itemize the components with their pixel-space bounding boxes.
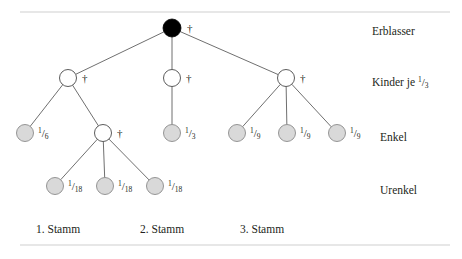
row-label-urenkel: Urenkel <box>380 184 417 196</box>
edge-kind-3-enkel-5 <box>286 86 287 124</box>
stamm-label-stamm-2: 2. Stamm <box>140 223 184 235</box>
node-circle-enkel-6 <box>329 125 346 142</box>
node-enkel-2: † <box>95 125 124 142</box>
node-circle-enkel-1 <box>17 125 34 142</box>
node-kind-1: † <box>60 70 89 87</box>
node-enkel-4: 1/9 <box>229 125 261 142</box>
node-urenkel-3: 1/18 <box>147 178 183 195</box>
dagger-icon-enkel-2: † <box>117 127 123 139</box>
nodes-layer: ††††1/6†1/31/91/91/91/181/181/18 <box>17 19 361 195</box>
node-circle-enkel-4 <box>229 125 246 142</box>
edge-kind-3-enkel-6 <box>292 84 331 127</box>
dagger-icon-kind-3: † <box>300 72 306 84</box>
node-urenkel-2: 1/18 <box>97 178 133 195</box>
stamm-label-stamm-3: 3. Stamm <box>240 223 284 235</box>
stamm-label-stamm-1: 1. Stamm <box>36 223 80 235</box>
row-label-kinder: Kinder je 1/3 <box>372 75 429 89</box>
edge-enkel-2-urenkel-1 <box>61 139 98 179</box>
node-enkel-5: 1/9 <box>279 125 311 142</box>
edge-kind-1-enkel-2 <box>73 85 99 126</box>
edge-kind-1-enkel-1 <box>30 85 63 127</box>
node-circle-urenkel-1 <box>47 178 64 195</box>
share-label-enkel-1: 1/6 <box>38 126 49 140</box>
dagger-icon-kind-1: † <box>82 72 88 84</box>
node-circle-enkel-2 <box>95 125 112 142</box>
node-enkel-6: 1/9 <box>329 125 361 142</box>
edge-erblasser-kind-3 <box>180 32 278 75</box>
node-circle-urenkel-3 <box>147 178 164 195</box>
tree-canvas: ††††1/6†1/31/91/91/91/181/181/18 Erblass… <box>0 0 462 259</box>
node-circle-kind-2 <box>164 70 181 87</box>
edge-enkel-2-urenkel-2 <box>103 141 104 177</box>
node-circle-enkel-5 <box>279 125 296 142</box>
edge-erblasser-kind-1 <box>76 32 164 74</box>
edges-layer <box>30 32 331 180</box>
share-label-enkel-5: 1/9 <box>300 126 311 140</box>
share-label-enkel-4: 1/9 <box>250 126 261 140</box>
node-urenkel-1: 1/18 <box>47 178 83 195</box>
erbfolge-diagram: ††††1/6†1/31/91/91/91/181/181/18 Erblass… <box>0 0 462 259</box>
node-circle-kind-1 <box>60 70 77 87</box>
row-label-erblasser: Erblasser <box>372 25 415 37</box>
row-label-enkel: Enkel <box>380 131 407 143</box>
node-kind-2: † <box>164 70 193 87</box>
node-circle-enkel-3 <box>164 125 181 142</box>
node-kind-3: † <box>278 70 307 87</box>
node-circle-erblasser <box>163 19 181 37</box>
edge-enkel-2-urenkel-3 <box>109 139 149 180</box>
row-labels-layer: ErblasserKinder je 1/3EnkelUrenkel <box>372 25 429 196</box>
stamm-labels-layer: 1. Stamm2. Stamm3. Stamm <box>36 223 284 235</box>
dagger-icon-kind-2: † <box>186 72 192 84</box>
share-label-enkel-6: 1/9 <box>350 126 361 140</box>
node-circle-urenkel-2 <box>97 178 114 195</box>
node-enkel-3: 1/3 <box>164 125 196 142</box>
node-circle-kind-3 <box>278 70 295 87</box>
share-label-urenkel-2: 1/18 <box>118 179 133 193</box>
share-label-urenkel-3: 1/18 <box>168 179 183 193</box>
node-enkel-1: 1/6 <box>17 125 49 142</box>
node-erblasser: † <box>163 19 193 37</box>
dagger-icon-erblasser: † <box>187 22 193 34</box>
share-label-enkel-3: 1/3 <box>185 126 196 140</box>
share-label-urenkel-1: 1/18 <box>68 179 83 193</box>
edge-kind-3-enkel-4 <box>243 84 281 126</box>
